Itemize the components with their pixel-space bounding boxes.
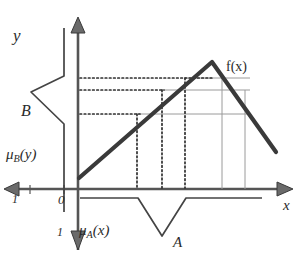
fx-curve-label: f(x) bbox=[226, 60, 247, 74]
mu-b-axis-label: μB(y) bbox=[6, 147, 36, 164]
mu-a-axis-one-label: 1 bbox=[57, 226, 63, 238]
y-axis-arrowhead bbox=[71, 17, 85, 33]
fuzzy-mapping-figure: y B μB(y) 1 0 1 μA(x) A x f(x) bbox=[0, 0, 301, 263]
origin-label: 0 bbox=[58, 193, 65, 206]
figure-canvas bbox=[0, 0, 301, 263]
set-a-label: A bbox=[173, 235, 182, 250]
set-b-label: B bbox=[21, 103, 31, 119]
mu-b-argument: (y) bbox=[20, 146, 37, 162]
mu-b-membership-curve bbox=[31, 28, 64, 212]
mu-b-axis-one-label: 1 bbox=[12, 193, 18, 205]
mu-a-symbol: μ bbox=[79, 222, 87, 238]
x-axis-arrowhead bbox=[277, 182, 293, 196]
mu-a-argument: (x) bbox=[93, 222, 110, 238]
mu-a-axis-label: μA(x) bbox=[79, 223, 109, 240]
y-axis-label: y bbox=[13, 27, 21, 44]
x-axis-label: x bbox=[283, 198, 290, 213]
mu-b-symbol: μ bbox=[6, 146, 14, 162]
fx-curve bbox=[79, 62, 276, 178]
